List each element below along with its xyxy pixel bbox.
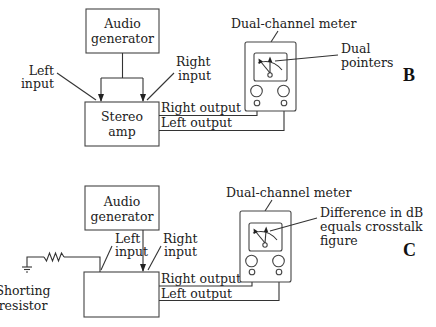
arrow-down-icon	[98, 94, 104, 102]
audio-generator-box-b: Audio generator	[86, 9, 159, 53]
right-output-label: Right output	[161, 271, 241, 286]
meter-jack-left	[254, 100, 260, 106]
meter-title: Dual-channel meter	[226, 185, 351, 200]
right-input-callout-b: Right input	[147, 54, 211, 100]
right-input-callout-c: Right input	[148, 231, 198, 270]
crosstalk-test-diagram: Audio generator Stereo amp Left input Ri…	[0, 0, 436, 327]
resistor-label-line1: Shorting	[0, 283, 51, 298]
panel-b: Audio generator Stereo amp Left input Ri…	[21, 9, 415, 146]
meter-note-line1: Difference in dB	[320, 205, 423, 220]
left-output-label: Left output	[161, 286, 232, 301]
left-input-callout-b: Left input	[21, 63, 96, 100]
generator-label-line2: generator	[91, 209, 154, 224]
amp-label-line1: Stereo	[101, 109, 143, 124]
meter-knob-right[interactable]	[273, 255, 285, 267]
meter-note-line3: figure	[320, 233, 358, 248]
right-output-label: Right output	[161, 100, 241, 115]
meter-note-line2: pointers	[341, 55, 393, 70]
stereo-amp-box: Stereo amp	[85, 102, 159, 146]
meter-title: Dual-channel meter	[231, 16, 356, 31]
crosstalk-note-callout: Difference in dB equals crosstalk figure	[270, 205, 423, 248]
generator-feed-wires-b	[98, 53, 146, 102]
meter-jack-right	[276, 269, 282, 275]
amp-label-line2: amp	[108, 124, 135, 139]
dual-channel-meter-b: Dual-channel meter	[231, 16, 356, 111]
audio-generator-box-c: Audio generator	[85, 186, 159, 230]
meter-jack-left	[249, 269, 255, 275]
generator-label-line1: Audio	[103, 194, 141, 209]
meter-note-line1: Dual	[341, 41, 371, 56]
pointer-pivot	[263, 243, 267, 247]
generator-label-line2: generator	[91, 31, 154, 46]
meter-note-line2: equals crosstalk	[320, 219, 423, 234]
panel-c: Audio generator Shorting resistor Left i…	[0, 185, 423, 317]
left-output-label: Left output	[161, 115, 232, 130]
left-input-label-line2: input	[21, 76, 54, 91]
meter-knob-left[interactable]	[246, 255, 258, 267]
panel-label-b: B	[403, 65, 415, 85]
resistor-zigzag-icon	[44, 253, 64, 261]
meter-knob-left[interactable]	[251, 85, 263, 97]
left-input-label-line2: input	[115, 244, 148, 259]
resistor-label-line2: resistor	[0, 298, 47, 313]
meter-jack-right	[281, 100, 287, 106]
meter-knob-right[interactable]	[278, 85, 290, 97]
arrow-down-icon	[140, 94, 146, 102]
right-input-label-line1: Right	[176, 54, 211, 69]
right-input-label-line2: input	[178, 68, 211, 83]
arrow-down-icon	[140, 264, 146, 272]
right-input-label-line2: input	[164, 244, 197, 259]
generator-label-line1: Audio	[103, 16, 141, 31]
pointer-pivot	[268, 73, 272, 77]
panel-label-c: C	[403, 240, 416, 260]
stereo-amp-box-c	[84, 272, 159, 317]
